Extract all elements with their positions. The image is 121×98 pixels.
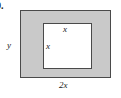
outer-height-label: y (7, 41, 11, 50)
inner-left-side-label: x (46, 42, 50, 51)
problem-number-label: 9. (0, 0, 7, 11)
outer-rectangle-shape (20, 10, 111, 78)
figure-container: 9. x x y 2x (0, 0, 121, 98)
inner-top-side-label: x (63, 25, 67, 34)
outer-width-label: 2x (59, 81, 68, 90)
inner-square-shape (43, 23, 92, 69)
